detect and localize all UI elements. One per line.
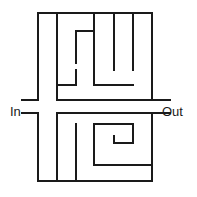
entrance-label: In <box>10 105 21 118</box>
exit-label: Out <box>162 105 183 118</box>
maze-diagram <box>0 0 197 197</box>
maze-wall-group <box>22 13 170 181</box>
maze-figure: In Out <box>0 0 197 197</box>
